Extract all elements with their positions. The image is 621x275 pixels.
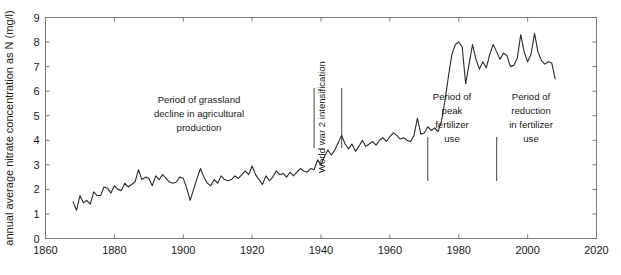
y-tick-label-7: 7 xyxy=(33,61,39,73)
annotation-grassland-line3: production xyxy=(177,122,222,133)
x-tick-label-1940: 1940 xyxy=(309,244,333,256)
annotation-peak-line4: use xyxy=(444,133,459,144)
x-tick-label-1860: 1860 xyxy=(33,244,57,256)
nitrate-concentration-chart: 186018801900192019401960198020002020 012… xyxy=(0,0,621,275)
x-tick-label-2000: 2000 xyxy=(515,244,539,256)
y-tick-label-1: 1 xyxy=(33,208,39,220)
x-tick-label-1980: 1980 xyxy=(447,244,471,256)
annotation-reduction-line3: in fertilizer xyxy=(509,119,554,130)
x-axis-tick-labels: 186018801900192019401960198020002020 xyxy=(33,244,608,256)
y-tick-label-4: 4 xyxy=(33,134,39,146)
y-tick-label-5: 5 xyxy=(33,110,39,122)
y-tick-label-3: 3 xyxy=(33,159,39,171)
annotation-reduction-line2: reduction xyxy=(511,105,550,116)
y-tick-label-2: 2 xyxy=(33,183,39,195)
x-tick-label-1900: 1900 xyxy=(171,244,195,256)
annotation-world-war-2: World war 2 intensification xyxy=(316,61,327,173)
annotation-reduction-line1: Period of xyxy=(512,91,551,102)
y-tick-label-6: 6 xyxy=(33,85,39,97)
y-tick-label-8: 8 xyxy=(33,36,39,48)
annotation-ww2-label: World war 2 intensification xyxy=(316,61,327,173)
y-tick-label-0: 0 xyxy=(33,233,39,245)
y-tick-label-9: 9 xyxy=(33,12,39,24)
x-tick-label-1920: 1920 xyxy=(240,244,264,256)
annotation-peak-line3: fertilizer xyxy=(435,119,469,130)
annotation-reduction-line4: use xyxy=(523,133,538,144)
x-tick-label-1880: 1880 xyxy=(102,244,126,256)
x-tick-label-2020: 2020 xyxy=(584,244,608,256)
x-tick-label-1960: 1960 xyxy=(378,244,402,256)
annotation-grassland-line1: Period of grassland xyxy=(158,94,241,105)
annotation-grassland-line2: decline in agricultural xyxy=(154,108,244,119)
annotation-peak-line2: peak xyxy=(442,105,463,116)
annotation-peak-line1: Period of xyxy=(433,91,472,102)
chart-svg: 186018801900192019401960198020002020 012… xyxy=(0,0,621,275)
y-axis-title: annual average nitrate concentration as … xyxy=(3,10,15,245)
